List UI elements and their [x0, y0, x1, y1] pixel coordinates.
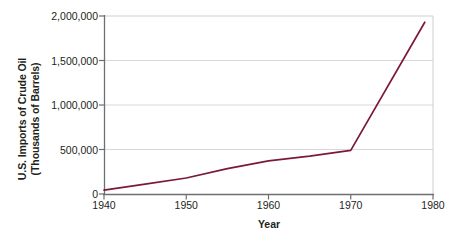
data-series-line — [104, 22, 425, 190]
plot-area — [0, 0, 450, 238]
x-axis-ticks — [104, 195, 433, 200]
grid-lines — [104, 61, 433, 150]
chart-figure: U.S. Imports of Crude Oil (Thousands of … — [0, 0, 450, 238]
y-axis-ticks — [99, 16, 104, 194]
